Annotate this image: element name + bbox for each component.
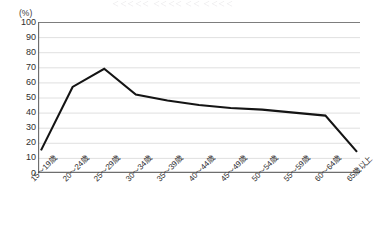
axis-lines xyxy=(38,22,360,173)
y-axis-tick-100: 100 xyxy=(2,18,36,27)
plot-svg xyxy=(38,22,360,173)
y-axis-tick-40: 40 xyxy=(2,108,36,117)
y-axis-tick-20: 20 xyxy=(2,138,36,147)
y-axis-tick-90: 90 xyxy=(2,33,36,42)
y-axis-tick-60: 60 xyxy=(2,78,36,87)
plot-area xyxy=(38,22,360,173)
y-axis-tick-80: 80 xyxy=(2,48,36,57)
y-axis-tick-70: 70 xyxy=(2,63,36,72)
y-axis-tick-30: 30 xyxy=(2,123,36,132)
gridlines xyxy=(38,23,360,159)
x-axis-tick-labels: 15～19歳20～24歳25～29歳30～34歳35～39歳40～44歳45～4… xyxy=(0,173,368,228)
y-axis-tick-50: 50 xyxy=(2,93,36,102)
data-series-line xyxy=(41,69,357,152)
cropped-title-remnant: ＜＜＜＜＜ ＜＜＜＜ ＜＜ ＜＜＜＜ xyxy=(112,0,360,7)
y-axis-tick-10: 10 xyxy=(2,153,36,162)
